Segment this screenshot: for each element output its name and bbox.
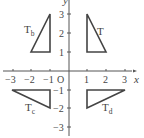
origin-label: O xyxy=(57,74,64,85)
x-axis-label: x xyxy=(133,73,139,85)
label-Tb: Tb xyxy=(24,23,35,38)
x-tick-label: 1 xyxy=(84,74,89,85)
label-T: T xyxy=(97,25,104,37)
coordinate-diagram: −3 −2 −1 O 1 2 3 x 3 2 1 −1 −2 −3 y T Tb… xyxy=(0,0,144,138)
x-tick-label: −1 xyxy=(43,74,54,85)
x-tick-label: 2 xyxy=(103,74,108,85)
y-tick-label: −2 xyxy=(53,103,64,114)
x-tick-label: −3 xyxy=(5,74,16,85)
x-tick-label: −2 xyxy=(24,74,35,85)
label-Td: Td xyxy=(102,101,113,116)
y-tick-label: 1 xyxy=(59,47,64,58)
y-axis-label: y xyxy=(62,0,68,6)
label-Tc: Tc xyxy=(25,101,36,116)
y-tick-label: −1 xyxy=(53,85,64,96)
y-tick-label: −3 xyxy=(53,122,64,133)
y-tick-label: 3 xyxy=(59,9,64,20)
y-tick-label: 2 xyxy=(59,28,64,39)
x-tick-label: 3 xyxy=(122,74,127,85)
